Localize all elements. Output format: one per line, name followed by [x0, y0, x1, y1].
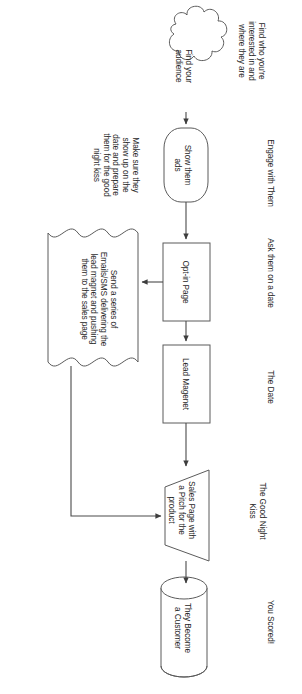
stage-label-1: Find who you're interested in and where … [237, 14, 266, 88]
stage-label-3: Ask them on a date [265, 228, 275, 318]
stage-label-2: Engage with Them [265, 131, 275, 215]
flowchart-canvas: Find your audience Show them ads Opt-in … [0, 0, 302, 694]
node-label-email-sequence: Send a series of Emails/SMS delivering t… [79, 243, 118, 355]
node-label-sales-page: Sales Page with a Pitch for the product [167, 477, 196, 543]
stage-label-4: The Date [265, 363, 275, 411]
node-label-customer: They Become a Customer [172, 597, 192, 659]
node-label-lead-magnet: Lead Magenet [180, 352, 190, 416]
diagram-vector-layer [0, 0, 302, 694]
node-label-opt-in-page: Opt-in Page [180, 252, 190, 312]
node-label-find-audience: Find your audience [173, 35, 193, 97]
stage-label-6: You Scored! [265, 594, 275, 650]
connector-emails-to-salespage [71, 366, 161, 516]
node-label-show-ads: Show them ads [172, 139, 192, 191]
stage-label-5: The Good Night Kiss [247, 475, 267, 547]
annotation-note-left: Make sure they show up on the date and p… [91, 111, 140, 219]
